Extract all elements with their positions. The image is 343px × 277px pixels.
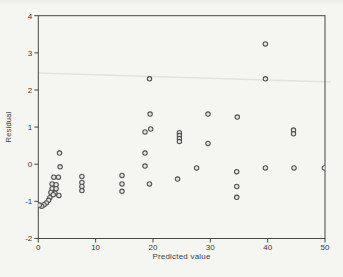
data-point: [57, 151, 61, 155]
data-points-group: [37, 42, 326, 209]
data-point: [206, 112, 210, 116]
x-tick-label: 10: [91, 243, 100, 252]
data-point: [194, 166, 198, 170]
data-point: [147, 182, 151, 186]
data-point: [322, 166, 326, 170]
y-tick-label: 1: [28, 123, 33, 132]
data-point: [143, 130, 147, 134]
data-point: [291, 132, 295, 136]
data-point: [54, 187, 58, 191]
data-point: [120, 182, 124, 186]
data-point: [292, 166, 296, 170]
data-point: [143, 151, 147, 155]
data-point: [148, 112, 152, 116]
x-tick-label: 40: [263, 243, 272, 252]
x-tick-label: 0: [36, 243, 41, 252]
y-axis-title: Residual: [4, 97, 14, 157]
x-axis-title: Predicted value: [38, 252, 325, 261]
data-point: [52, 175, 56, 179]
data-point: [263, 42, 267, 46]
scan-artifact-line: [38, 73, 331, 82]
y-tick-label: 4: [28, 12, 33, 21]
data-point: [80, 188, 84, 192]
data-point: [149, 127, 153, 131]
data-point: [80, 174, 84, 178]
x-tick-label: 30: [206, 243, 215, 252]
residual-scatter-plot: 0102030405043210-1-2: [0, 0, 343, 277]
data-point: [175, 177, 179, 181]
data-point: [235, 170, 239, 174]
plot-frame: [38, 16, 325, 239]
data-point: [143, 164, 147, 168]
y-tick-label: -1: [25, 197, 33, 206]
data-point: [57, 193, 61, 197]
data-point: [235, 195, 239, 199]
y-tick-label: 2: [28, 86, 33, 95]
data-point: [58, 165, 62, 169]
data-point: [263, 166, 267, 170]
y-tick-label: 0: [28, 160, 33, 169]
data-point: [120, 189, 124, 193]
scanned-figure-page: 0102030405043210-1-2 Residual Predicted …: [0, 0, 343, 277]
data-point: [147, 77, 151, 81]
data-point: [263, 77, 267, 81]
y-tick-label: 3: [28, 49, 33, 58]
data-point: [206, 141, 210, 145]
x-tick-label: 50: [321, 243, 330, 252]
data-point: [235, 115, 239, 119]
data-point: [56, 175, 60, 179]
x-tick-label: 20: [149, 243, 158, 252]
data-point: [177, 139, 181, 143]
y-tick-label: -2: [25, 234, 33, 243]
data-point: [235, 184, 239, 188]
data-point: [120, 173, 124, 177]
